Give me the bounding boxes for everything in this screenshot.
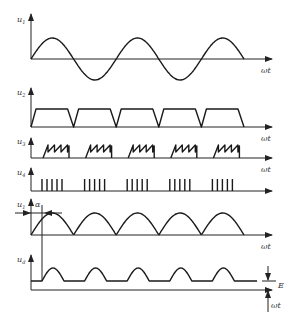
panel-ud: ud E ωt: [17, 255, 284, 312]
ud-label: ud: [17, 255, 25, 265]
trapezoid-wave: [31, 109, 244, 127]
sawtooth-wave: [43, 145, 239, 158]
panel-u2-trapezoid: u2 ωt: [17, 88, 272, 143]
u4-label: u4: [17, 168, 25, 178]
omega-t-label: ωt: [261, 242, 272, 251]
omega-t-label: ωt: [261, 165, 272, 174]
panel-u4-pulses: u4: [17, 168, 272, 191]
e-label: E: [277, 281, 284, 290]
omega-t-label: ωt: [261, 66, 272, 75]
alpha-label: α: [35, 200, 41, 209]
omega-t-label: ωt: [271, 301, 282, 310]
pulse-train: [42, 179, 232, 191]
omega-t-label: ωt: [261, 134, 272, 143]
u3-label: u3: [17, 137, 25, 147]
ud-wave: [31, 268, 257, 281]
waveform-diagram: u1 ωt u2 ωt u3 ωt u4 u1 α ωt: [0, 0, 295, 322]
panel-u3-sawtooth: u3 ωt: [17, 137, 272, 174]
u1-rectified-label: u1: [17, 200, 25, 210]
panel-u1-sine: u1 ωt: [17, 14, 272, 80]
u1-label: u1: [17, 15, 25, 25]
rectified-sine-wave: [31, 213, 244, 235]
u2-label: u2: [17, 88, 25, 98]
